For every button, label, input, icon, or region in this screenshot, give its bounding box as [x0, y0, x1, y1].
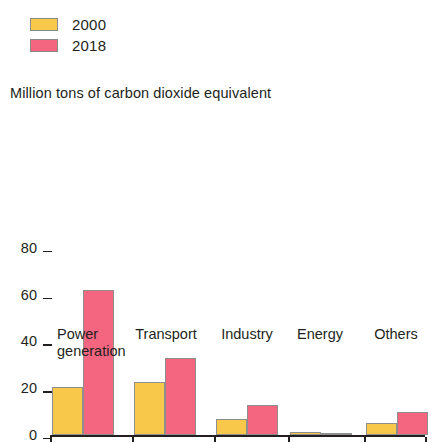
x-axis-tick-mark — [288, 437, 290, 442]
x-axis-tick-mark — [132, 437, 134, 442]
bar — [247, 405, 278, 435]
legend-item-2000: 2000 — [30, 14, 106, 35]
bar — [216, 419, 247, 435]
y-axis-tick-20: 20 — [0, 381, 52, 395]
y-axis-tick-label: 80 — [21, 241, 37, 256]
bar-group — [52, 118, 114, 435]
x-axis-label: Others — [341, 326, 431, 343]
y-axis-tick-label: 60 — [21, 288, 37, 303]
legend-swatch-2000 — [30, 18, 58, 31]
legend-swatch-2018 — [30, 39, 58, 52]
bar-group — [290, 118, 352, 435]
y-axis-tick-label: 20 — [21, 381, 37, 396]
y-axis-tick-label: 0 — [29, 428, 37, 443]
x-axis-tick-mark — [364, 437, 366, 442]
x-axis-tick-mark — [214, 437, 216, 442]
chart-subtitle: Million tons of carbon dioxide equivalen… — [10, 85, 271, 101]
bar — [397, 412, 428, 435]
bar — [321, 433, 352, 435]
y-axis-tick-60: 60 — [0, 288, 52, 302]
bar-group — [366, 118, 428, 435]
bar — [83, 290, 114, 435]
y-axis-tick-mark — [43, 391, 52, 393]
bar — [290, 432, 321, 436]
legend-label-2000: 2000 — [72, 17, 106, 32]
bar — [165, 358, 196, 435]
chart-plot-area: 020406080 — [0, 118, 431, 323]
x-axis-line — [50, 435, 425, 437]
bar-group — [134, 118, 196, 435]
y-axis-tick-0: 0 — [0, 428, 52, 442]
x-axis-tick-mark — [50, 437, 52, 442]
bar-group — [216, 118, 278, 435]
x-axis-labels: Power generationTransportIndustryEnergyO… — [0, 326, 431, 362]
bar — [366, 423, 397, 435]
legend-item-2018: 2018 — [30, 35, 106, 56]
bar — [134, 382, 165, 435]
y-axis-tick-mark — [43, 298, 52, 300]
y-axis-tick-80: 80 — [0, 241, 52, 255]
bar — [52, 387, 83, 435]
legend-label-2018: 2018 — [72, 38, 106, 53]
chart-legend: 2000 2018 — [30, 14, 106, 56]
x-axis-tick-mark — [425, 437, 427, 442]
y-axis-tick-mark — [43, 251, 52, 253]
